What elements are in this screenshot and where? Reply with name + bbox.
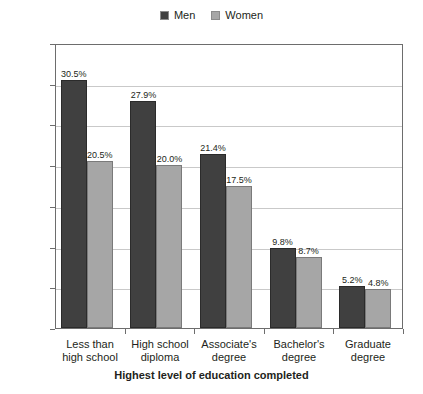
bar-value-label: 4.8%: [359, 279, 397, 288]
x-axis-category-line: degree: [327, 351, 409, 364]
bar-men-4: [339, 286, 365, 328]
bar-men-0: [61, 80, 87, 328]
x-axis-tick: [125, 329, 126, 334]
bar-value-label: 20.5%: [81, 151, 119, 160]
bar-value-label: 20.0%: [150, 155, 188, 164]
x-axis-tick: [194, 329, 195, 334]
bar-value-label: 17.5%: [220, 176, 258, 185]
bar-value-label: 21.4%: [194, 144, 232, 153]
gridline: [56, 86, 402, 87]
gridline: [56, 126, 402, 127]
bar-chart: Men Women 30.5%20.5%27.9%20.0%21.4%17.5%…: [0, 0, 423, 394]
legend-label-women: Women: [225, 10, 263, 21]
y-axis-tick: [50, 288, 55, 289]
y-axis-tick: [50, 329, 55, 330]
bar-women-4: [365, 289, 391, 328]
y-axis-tick: [50, 44, 55, 45]
plot-area: 30.5%20.5%27.9%20.0%21.4%17.5%9.8%8.7%5.…: [55, 44, 403, 329]
y-axis-tick: [50, 125, 55, 126]
bar-men-1: [130, 101, 156, 328]
x-axis-tick: [403, 329, 404, 334]
bar-value-label: 9.8%: [264, 238, 302, 247]
y-axis-tick: [50, 166, 55, 167]
x-axis-tick: [333, 329, 334, 334]
bar-women-1: [156, 165, 182, 328]
bar-value-label: 30.5%: [55, 70, 93, 79]
legend-entry-women: Women: [211, 10, 263, 21]
x-axis-category-line: Graduate: [327, 338, 409, 351]
legend-entry-men: Men: [160, 10, 195, 21]
y-axis-tick: [50, 207, 55, 208]
bar-women-2: [226, 186, 252, 329]
y-axis-tick: [50, 248, 55, 249]
bar-value-label: 27.9%: [124, 91, 162, 100]
legend-swatch-women: [211, 11, 220, 20]
legend-swatch-men: [160, 11, 169, 20]
chart-legend: Men Women: [0, 10, 423, 21]
x-axis-category-label: Graduatedegree: [327, 338, 409, 364]
bar-women-0: [87, 161, 113, 328]
x-axis-tick: [264, 329, 265, 334]
bar-value-label: 8.7%: [290, 247, 328, 256]
bar-women-3: [296, 257, 322, 328]
bar-men-3: [270, 248, 296, 328]
y-axis-tick: [50, 85, 55, 86]
legend-label-men: Men: [174, 10, 195, 21]
x-axis-title: Highest level of education completed: [0, 369, 423, 381]
